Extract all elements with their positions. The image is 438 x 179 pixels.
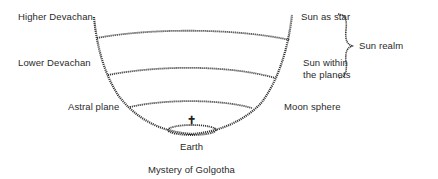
label-higher-devachan: Higher Devachan [18, 11, 93, 23]
bowl-diagram [0, 0, 438, 179]
caption-mystery-of-golgotha: Mystery of Golgotha [148, 164, 235, 176]
band-lower-devachan [108, 68, 275, 78]
label-astral-plane: Astral plane [68, 101, 119, 113]
label-sun-within-planets-line2: the planets [303, 69, 351, 81]
band-higher-devachan [97, 31, 290, 40]
label-lower-devachan: Lower Devachan [18, 57, 91, 69]
label-sun-as-star: Sun as star [301, 11, 350, 23]
band-astral-plane [130, 101, 252, 108]
label-sun-within-planets-line1: Sun within [303, 57, 348, 69]
cross-icon: ✝ [187, 114, 196, 126]
label-moon-sphere: Moon sphere [284, 101, 341, 113]
label-earth: Earth [180, 141, 203, 153]
label-sun-realm: Sun realm [359, 40, 403, 52]
